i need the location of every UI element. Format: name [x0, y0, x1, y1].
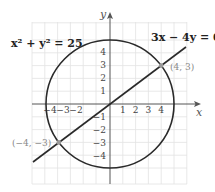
x-tick: 3: [146, 105, 152, 115]
y-tick: −1: [93, 112, 106, 122]
y-tick: −3: [93, 138, 107, 148]
point-label-neg4-neg3: (−4, −3): [12, 138, 51, 148]
y-tick: 3: [100, 60, 106, 70]
circle-equation-label: x² + y² = 25: [11, 37, 83, 50]
point-label-4-3: (4, 3): [170, 62, 194, 72]
x-axis-label: x: [196, 106, 203, 119]
x-tick: 2: [133, 105, 139, 115]
intersection-point-marker: [57, 140, 62, 145]
y-tick: 2: [100, 73, 106, 83]
line-equation-label: 3x − 4y = 0: [151, 31, 215, 44]
x-tick: −2: [69, 105, 82, 115]
y-tick: 1: [100, 86, 106, 96]
intersection-point-marker: [159, 63, 164, 68]
x-tick: 1: [120, 105, 126, 115]
y-tick: −4: [93, 151, 107, 161]
coordinate-plane: x y −4 −3 −2 1 2 3 4 4 3 2 1 −1 −2 −3 −4…: [0, 0, 215, 192]
x-tick: −3: [56, 105, 70, 115]
y-tick: −2: [93, 125, 106, 135]
x-tick: 4: [158, 105, 164, 115]
y-axis-label: y: [99, 8, 107, 21]
y-tick: 4: [100, 47, 106, 57]
